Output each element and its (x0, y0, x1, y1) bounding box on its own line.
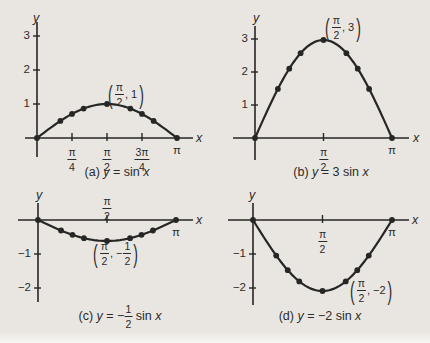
plot-a-data-point (34, 135, 40, 141)
plot-a-data-point (81, 106, 87, 112)
plot-a-data-point (127, 106, 133, 112)
plot-b-data-point (366, 86, 372, 92)
plot-b-data-point (298, 50, 304, 56)
plot-c-data-point (81, 235, 87, 241)
plots-canvas (0, 0, 430, 343)
plot-c-data-point (104, 238, 110, 244)
plot-b-data-point (389, 135, 395, 141)
plot-a (25, 22, 193, 157)
plot-d-data-point (354, 267, 360, 273)
plot-d-data-point (389, 217, 395, 223)
plot-b-data-point (252, 135, 258, 141)
plot-b (233, 26, 409, 160)
plot-a-data-point (151, 118, 157, 124)
plot-d-data-point (273, 253, 279, 259)
plot-a-data-point (139, 111, 145, 117)
textbook-figure-page: 123π4π23π4πxy(π2, 1)(a) y = sin x123π2πx… (0, 0, 430, 343)
plot-b-data-point (343, 50, 349, 56)
plot-a-data-point (69, 111, 75, 117)
plot-c-data-point (127, 235, 133, 241)
plot-c (18, 203, 193, 302)
plot-b-data-point (355, 66, 361, 72)
plot-d (228, 203, 409, 305)
plot-c-data-point (58, 228, 64, 234)
plot-d-data-point (250, 217, 256, 223)
plot-b-data-point (286, 66, 292, 72)
plot-c-data-point (35, 217, 41, 223)
plot-c-data-point (139, 232, 145, 238)
plot-b-data-point (275, 86, 281, 92)
plot-b-data-point (321, 37, 327, 43)
plot-c-data-point (70, 232, 76, 238)
plot-a-data-point (174, 135, 180, 141)
plot-d-data-point (285, 267, 291, 273)
plot-a-data-point (57, 118, 63, 124)
plot-c-data-point (173, 217, 179, 223)
plot-d-data-point (366, 253, 372, 259)
plot-d-data-point (343, 279, 349, 285)
plot-c-data-point (150, 228, 156, 234)
plot-d-data-point (296, 279, 302, 285)
plot-a-data-point (104, 101, 110, 107)
plot-d-data-point (320, 288, 326, 294)
